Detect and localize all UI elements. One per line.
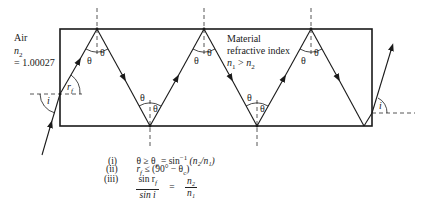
theta-label: θ bbox=[260, 103, 265, 114]
theta-label: θ bbox=[194, 55, 199, 66]
equation-3: (iii) sin rf sin i = n₂ n₁ bbox=[104, 174, 197, 201]
theta-label: θ bbox=[87, 55, 92, 66]
material-index-relation: n1 > n2 bbox=[227, 57, 255, 73]
incident-angle-label: i bbox=[47, 95, 50, 106]
theta-label: θ bbox=[100, 47, 105, 58]
air-index-value: = 1.00027 bbox=[14, 57, 55, 68]
fraction-index-ratio: n₂ n₁ bbox=[185, 176, 197, 199]
theta-label: θ bbox=[247, 92, 252, 103]
theta-label: θ bbox=[301, 55, 306, 66]
reflection-points bbox=[59, 28, 313, 128]
theta-label: θ bbox=[207, 47, 212, 58]
angle-arcs bbox=[40, 49, 387, 113]
material-index-label: refractive index bbox=[227, 45, 290, 56]
material-label: Material bbox=[227, 33, 261, 44]
air-label: Air bbox=[14, 32, 27, 43]
theta-label: θ bbox=[153, 103, 158, 114]
theta-label: θ bbox=[140, 92, 145, 103]
material-slab bbox=[60, 29, 372, 126]
fraction-sin-ratio: sin rf sin i bbox=[136, 174, 159, 201]
theta-label: θ bbox=[314, 47, 319, 58]
exit-angle-label: i bbox=[379, 100, 382, 111]
total-internal-reflection-diagram bbox=[0, 0, 427, 206]
light-ray bbox=[42, 29, 392, 155]
refracted-angle-label: rf bbox=[67, 81, 73, 97]
